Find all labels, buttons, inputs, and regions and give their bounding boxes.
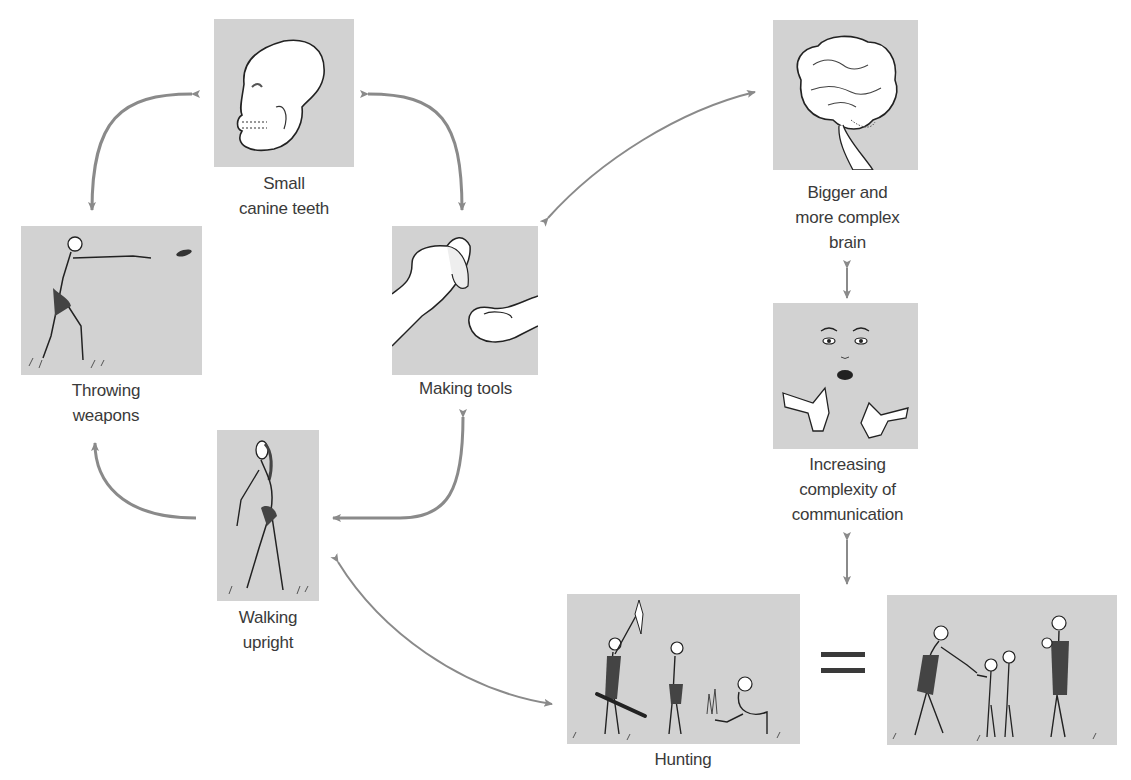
panel-walking bbox=[217, 430, 319, 601]
panel-brain bbox=[773, 20, 918, 170]
arrow-teeth-throwing bbox=[92, 94, 192, 210]
label-hunting: Hunting bbox=[608, 747, 758, 772]
family-group-icon bbox=[887, 595, 1117, 745]
panel-communication bbox=[773, 303, 918, 449]
label-walking: Walking upright bbox=[188, 605, 348, 655]
brain-icon bbox=[773, 20, 918, 170]
arrow-tools-brain bbox=[548, 92, 755, 218]
label-throwing: Throwing weapons bbox=[26, 378, 186, 428]
arrow-teeth-tools bbox=[368, 94, 462, 210]
label-communication: Increasing complexity of communication bbox=[765, 452, 930, 527]
hands-with-stone-icon bbox=[392, 226, 538, 375]
panel-family bbox=[887, 595, 1117, 745]
arrow-walking-hunting bbox=[338, 562, 552, 704]
panel-teeth bbox=[214, 19, 354, 167]
panel-throwing bbox=[21, 226, 202, 375]
panel-tools bbox=[392, 226, 538, 375]
hunting-group-icon bbox=[567, 594, 800, 744]
arrow-walking-throwing bbox=[95, 443, 196, 518]
throwing-figure-icon bbox=[21, 226, 202, 375]
label-teeth: Small canine teeth bbox=[204, 171, 364, 221]
panel-hunting bbox=[567, 594, 800, 744]
label-brain: Bigger and more complex brain bbox=[765, 180, 930, 255]
face-and-hands-icon bbox=[773, 303, 918, 449]
skull-icon bbox=[214, 19, 354, 167]
equals-sign bbox=[821, 652, 865, 674]
arrow-tools-walking bbox=[333, 417, 463, 518]
label-tools: Making tools bbox=[383, 376, 548, 401]
walking-figure-icon bbox=[217, 430, 319, 601]
